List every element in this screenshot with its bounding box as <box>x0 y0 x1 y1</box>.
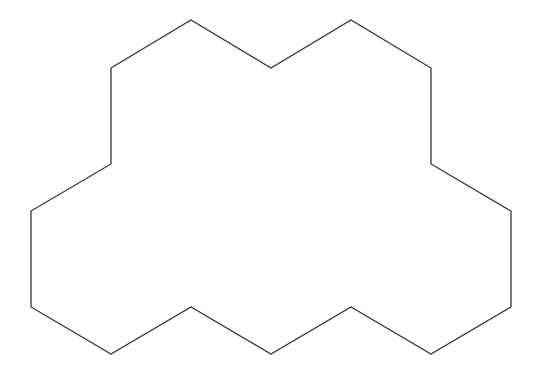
diagram-canvas <box>0 0 543 380</box>
hexagon-cluster-outline <box>31 20 511 354</box>
